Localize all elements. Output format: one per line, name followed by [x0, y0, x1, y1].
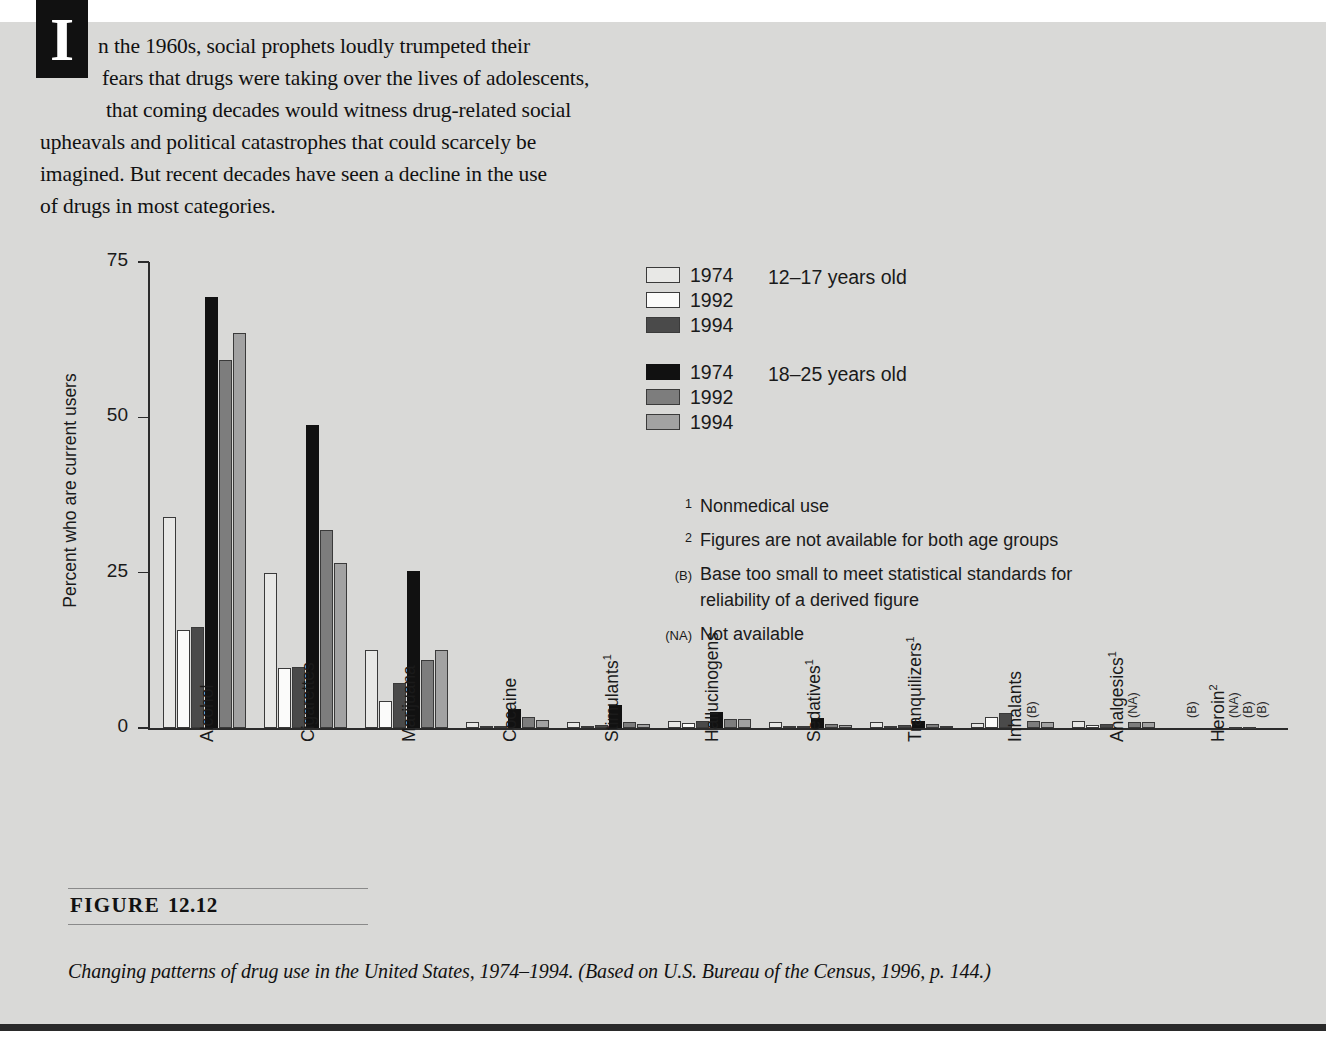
y-axis-tick-label: 0: [70, 715, 128, 737]
footnote-marker: 2: [648, 525, 692, 551]
legend-item[interactable]: 1994: [646, 313, 1066, 338]
footnote-row: (B)Base too small to meet statistical st…: [648, 561, 1118, 613]
y-axis-title: Percent who are current users: [60, 351, 81, 631]
category-label-text: Heroin: [1208, 690, 1228, 742]
bar: [163, 517, 176, 728]
footnote-text: Nonmedical use: [700, 493, 1118, 519]
bar: [1041, 722, 1054, 728]
x-axis-category-label: Stimulants1: [601, 654, 623, 742]
legend-swatch: [646, 389, 680, 405]
bar: [264, 573, 277, 728]
page-background: I n the 1960s, social prophets loudly tr…: [0, 0, 1326, 1041]
y-axis-tick: [138, 261, 149, 263]
category-label-text: Sedatives: [804, 665, 824, 742]
legend-item[interactable]: 1992: [646, 385, 1066, 410]
footnote-row: 2Figures are not available for both age …: [648, 527, 1118, 553]
bar: [1128, 722, 1141, 728]
bar: [926, 724, 939, 728]
bar: [435, 650, 448, 728]
legend-swatch: [646, 364, 680, 380]
y-axis-line: [148, 262, 150, 730]
legend-age-group-label: 12–17 years old: [768, 265, 907, 289]
footnote-row: (NA)Not available: [648, 621, 1118, 647]
bar: [884, 726, 897, 728]
footnote-text: Base too small to meet statistical stand…: [700, 561, 1118, 613]
bar-annotation: (B): [1025, 701, 1039, 718]
bar: [334, 563, 347, 728]
figure-number: 12.12: [168, 893, 218, 917]
legend-swatch: [646, 317, 680, 333]
footnote-marker: (NA): [648, 623, 692, 649]
bar: [623, 722, 636, 728]
x-axis-category-label: Alcohol: [197, 685, 218, 742]
bar: [825, 724, 838, 728]
bar: [581, 726, 594, 728]
figure-label-box: FIGURE12.12: [68, 888, 368, 925]
bar: [839, 725, 852, 728]
category-label-text: Stimulants: [602, 660, 622, 742]
x-axis-category-label: Analgesics1: [1106, 651, 1128, 742]
bar: [567, 722, 580, 728]
legend-year-label: 1974: [690, 360, 733, 384]
bar: [769, 722, 782, 728]
bar: [1243, 727, 1256, 729]
legend-year-label: 1992: [690, 288, 733, 312]
category-footnote-mark: 2: [1207, 684, 1219, 690]
x-axis-category-label: Inhalants: [1005, 671, 1026, 742]
legend-item[interactable]: 1992: [646, 288, 1066, 313]
bar: [278, 668, 291, 728]
legend-swatch: [646, 267, 680, 283]
bar: [783, 726, 796, 728]
category-label-text: Alcohol: [197, 685, 217, 742]
legend-year-label: 1994: [690, 313, 733, 337]
bar: [668, 721, 681, 728]
legend-group: 19741992199418–25 years old: [646, 360, 1066, 435]
bar-annotation: (B): [1185, 701, 1199, 718]
bar: [724, 719, 737, 728]
bar: [682, 723, 695, 728]
y-axis-tick: [138, 727, 149, 729]
bar: [1072, 721, 1085, 728]
bar: [1027, 721, 1040, 728]
category-label-text: Inhalants: [1005, 671, 1025, 742]
category-label-text: Marijuana: [399, 665, 419, 742]
legend-item[interactable]: 1994: [646, 410, 1066, 435]
category-label-text: Cigarettes: [298, 662, 318, 742]
y-axis-tick: [138, 417, 149, 419]
bar: [219, 360, 232, 728]
category-label-text: Tranquilizers: [905, 642, 925, 742]
bar: [536, 720, 549, 728]
bar: [365, 650, 378, 728]
bar-annotation: (NA): [1227, 692, 1241, 718]
y-axis-tick: [138, 572, 149, 574]
legend-swatch: [646, 414, 680, 430]
footnote-text: Not available: [700, 621, 1118, 647]
bar-annotation: (NA): [1126, 692, 1140, 718]
x-axis-category-label: Cigarettes: [298, 662, 319, 742]
legend-year-label: 1992: [690, 385, 733, 409]
bar: [1142, 722, 1155, 728]
bar: [421, 660, 434, 728]
bar: [466, 722, 479, 728]
legend-year-label: 1994: [690, 410, 733, 434]
legend-group: 19741992199412–17 years old: [646, 263, 1066, 338]
category-label-text: Cocaine: [500, 678, 520, 742]
bar: [480, 726, 493, 728]
chart-footnotes: 1Nonmedical use2Figures are not availabl…: [648, 493, 1118, 655]
x-axis-category-label: Sedatives1: [803, 659, 825, 742]
x-axis-category-label: Heroin2: [1207, 684, 1229, 742]
bar: [738, 719, 751, 728]
bar: [971, 723, 984, 728]
y-axis-tick-label: 75: [70, 249, 128, 271]
bar: [985, 717, 998, 728]
legend-age-group-label: 18–25 years old: [768, 362, 907, 386]
figure-caption: Changing patterns of drug use in the Uni…: [68, 960, 1248, 983]
bar-annotation: (B): [1255, 701, 1269, 718]
legend-year-label: 1974: [690, 263, 733, 287]
category-footnote-mark: 1: [803, 659, 815, 665]
bar: [205, 297, 218, 728]
bar: [233, 333, 246, 728]
bar-annotation: (B): [1241, 701, 1255, 718]
bar: [522, 717, 535, 728]
legend-swatch: [646, 292, 680, 308]
